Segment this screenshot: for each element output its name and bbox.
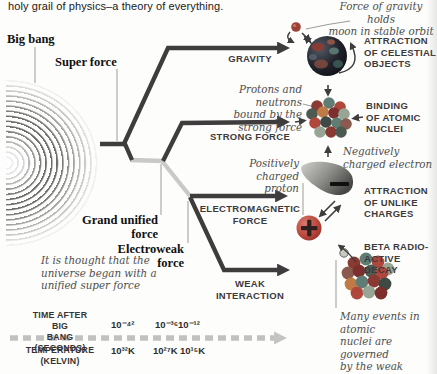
temperature-value-1: 10³²K bbox=[111, 345, 135, 356]
weak-annotation: Many events in atomic nuclei are governe… bbox=[340, 310, 437, 374]
temperature-axis-label: TEMPERATURE (KELVIN) bbox=[24, 345, 96, 367]
electron-annotation: Negatively charged electron bbox=[343, 145, 432, 170]
unlike-charges-illustration bbox=[297, 162, 354, 241]
grand-unified-force-label: Grand unified force bbox=[76, 213, 158, 241]
weak-interaction-arrow-label: WEAK INTERACTION bbox=[203, 278, 297, 301]
super-force-label: Super force bbox=[55, 55, 117, 69]
strong-force-arrow-label: STRONG FORCE bbox=[203, 131, 297, 143]
unlike-charges-caption: ATTRACTION OF UNLIKE CHARGES bbox=[364, 185, 428, 220]
time-value-1: 10⁻⁴² bbox=[111, 319, 134, 330]
proton-annotation: Positively charged proton bbox=[206, 157, 299, 195]
gravity-arrow-label: GRAVITY bbox=[203, 53, 297, 65]
time-value-2: 10⁻³⁶ bbox=[155, 319, 178, 330]
temperature-value-2: 10²⁷K bbox=[153, 345, 178, 356]
page-edge-shadow bbox=[426, 0, 437, 374]
moon-icon bbox=[291, 22, 301, 32]
temperature-value-3: 10¹⁵K bbox=[180, 345, 205, 356]
electromagnetic-arrow-label: ELECTROMAGNETIC FORCE bbox=[196, 203, 304, 226]
book-diagram-page: holy grail of physics–a theory of everyt… bbox=[0, 0, 437, 374]
origin-annotation: It is thought that the universe began wi… bbox=[41, 254, 157, 292]
big-bang-label: Big bang bbox=[7, 32, 55, 46]
time-value-3: 10⁻¹² bbox=[178, 319, 200, 330]
nucleus-icon bbox=[306, 97, 352, 138]
page-caption: holy grail of physics–a theory of everyt… bbox=[8, 0, 223, 12]
gravity-annotation: Force of gravity holds moon in stable or… bbox=[326, 0, 436, 38]
atomic-nuclei-caption: BINDING OF ATOMIC NUCLEI bbox=[366, 100, 421, 135]
strong-annotation: Protons and neutrons bound by the strong… bbox=[198, 83, 302, 133]
branch-lines-light bbox=[130, 160, 190, 196]
